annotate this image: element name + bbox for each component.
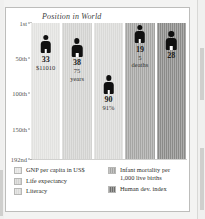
data-marker[interactable]: 3875years xyxy=(60,38,94,82)
legend-label: Life expectancy xyxy=(26,177,67,185)
legend-item[interactable]: Life expectancy xyxy=(14,177,106,185)
data-marker[interactable]: 33$11010 xyxy=(29,35,63,72)
legend-item[interactable]: Literacy xyxy=(14,187,106,195)
rank-label: 28 xyxy=(154,51,188,60)
value-unit-label: deaths xyxy=(123,61,157,69)
legend-swatch xyxy=(14,167,22,174)
legend-item[interactable]: GNP per capita in US$ xyxy=(14,166,106,174)
legend-label: Infant mortality per 1,000 live births xyxy=(120,166,170,182)
data-marker[interactable]: 195deaths xyxy=(123,25,157,69)
y-axis-tick-label: 50th xyxy=(15,54,27,61)
legend-swatch xyxy=(14,178,22,185)
panel-scroll-nub-top[interactable] xyxy=(200,48,204,100)
value-label: 91% xyxy=(92,104,126,112)
person-icon xyxy=(29,35,63,54)
legend-item[interactable]: Human dev. index xyxy=(108,185,188,193)
y-axis-tick-label: 1st xyxy=(19,20,27,27)
person-icon xyxy=(154,31,188,50)
value-label: $11010 xyxy=(29,64,63,72)
legend-swatch xyxy=(108,186,116,193)
plot-area: 1st50th100th150th192nd33$110103875years9… xyxy=(30,23,187,159)
person-icon xyxy=(92,75,126,94)
rank-label: 90 xyxy=(92,95,126,104)
person-icon xyxy=(123,25,157,44)
y-axis-tick-label: 150th xyxy=(12,126,27,133)
legend-label: GNP per capita in US$ xyxy=(26,166,85,174)
legend-swatch xyxy=(14,188,22,195)
chart-card: Position in World 1st50th100th150th192nd… xyxy=(5,7,190,212)
legend-column-left: GNP per capita in US$Life expectancyLite… xyxy=(14,166,106,198)
rank-label: 19 xyxy=(123,45,157,54)
legend-swatch xyxy=(108,167,116,174)
legend-item[interactable]: Infant mortality per 1,000 live births xyxy=(108,166,188,182)
rank-label: 38 xyxy=(60,58,94,67)
y-axis-tick-label: 192nd xyxy=(11,156,27,163)
value-label: 75 xyxy=(60,67,94,75)
gridline xyxy=(30,159,187,160)
legend-label: Human dev. index xyxy=(120,185,167,193)
person-icon xyxy=(60,38,94,57)
legend-column-right: Infant mortality per 1,000 live birthsHu… xyxy=(108,166,188,195)
data-marker[interactable]: 9091% xyxy=(92,75,126,112)
panel-scroll-nub-bottom[interactable] xyxy=(200,148,204,210)
legend-label: Literacy xyxy=(26,187,47,195)
value-unit-label: years xyxy=(60,75,94,83)
data-marker[interactable]: 28 xyxy=(154,31,188,60)
y-axis-tick-label: 100th xyxy=(12,90,27,97)
rank-label: 33 xyxy=(29,55,63,64)
value-label: 5 xyxy=(123,54,157,62)
chart-title: Position in World xyxy=(42,12,102,21)
panel-marker-left xyxy=(0,170,3,216)
figure-panel: Position in World 1st50th100th150th192nd… xyxy=(0,0,205,219)
chart-legend: GNP per capita in US$Life expectancyLite… xyxy=(14,166,184,208)
